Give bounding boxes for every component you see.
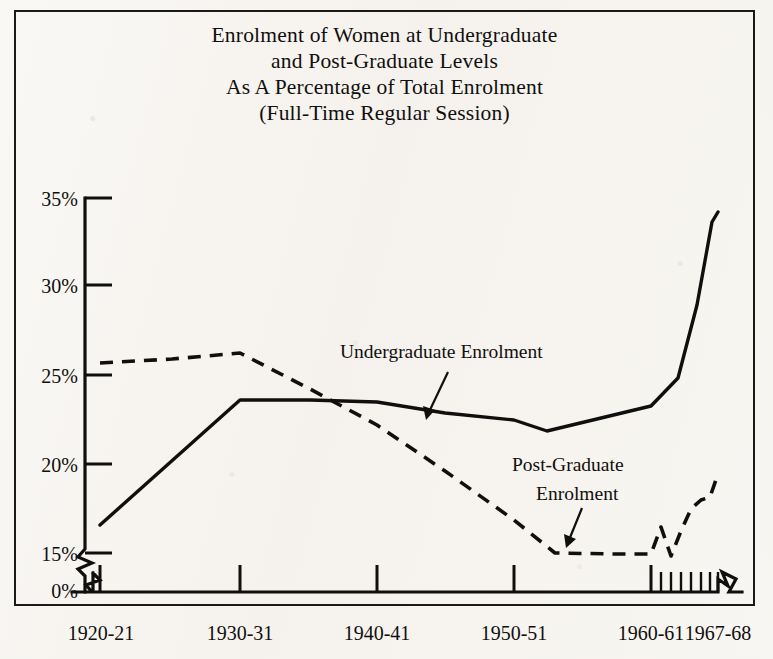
y-axis-label-15: 15% bbox=[41, 543, 78, 565]
series-undergraduate-enrolment bbox=[100, 212, 718, 525]
x-axis-line bbox=[72, 572, 742, 592]
x-axis-label-1960-61: 1960-61 bbox=[618, 622, 685, 644]
x-axis-label-1967-68: 1967-68 bbox=[685, 622, 752, 644]
x-axis-label-1930-31: 1930-31 bbox=[207, 622, 274, 644]
annotation-postgraduate-label-line1: Post-Graduate bbox=[512, 454, 624, 475]
y-axis-label-30: 30% bbox=[41, 275, 78, 297]
chart-figure: Enrolment of Women at Undergraduate and … bbox=[0, 0, 773, 659]
y-axis-line bbox=[78, 198, 92, 592]
annotation-undergraduate-label: Undergraduate Enrolment bbox=[340, 341, 543, 362]
annotation-postgraduate-label-line2: Enrolment bbox=[536, 483, 619, 504]
y-axis-label-35: 35% bbox=[41, 188, 78, 210]
annotation-undergraduate-leader bbox=[429, 372, 448, 412]
x-axis-label-1920-21: 1920-21 bbox=[68, 622, 135, 644]
plot-area: 35% 30% 25% 20% 15% 0% 1920-21 1930-31 1… bbox=[0, 0, 773, 659]
series-postgraduate-enrolment bbox=[100, 353, 718, 556]
annotation-undergraduate-arrowhead bbox=[423, 406, 435, 420]
x-axis-label-1940-41: 1940-41 bbox=[344, 622, 411, 644]
y-axis-label-20: 20% bbox=[41, 454, 78, 476]
x-axis-label-1950-51: 1950-51 bbox=[481, 622, 548, 644]
y-axis-label-25: 25% bbox=[41, 365, 78, 387]
annotation-postgraduate-leader bbox=[569, 508, 582, 540]
